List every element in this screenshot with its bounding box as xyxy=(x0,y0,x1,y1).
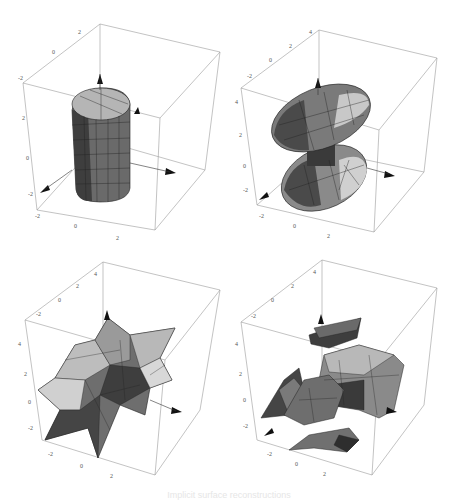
svg-text:-2: -2 xyxy=(259,213,264,219)
svg-text:-2: -2 xyxy=(251,313,256,319)
svg-text:0: 0 xyxy=(74,223,77,229)
svg-text:-2: -2 xyxy=(48,451,53,457)
figure-caption: Implicit surface reconstructions xyxy=(0,490,458,500)
plot-panel-cylinder: 2 0 -2 2 0 -2 -2 0 2 xyxy=(0,0,229,240)
fragments-3d-plot: 4 2 0 -2 4 2 0 -2 -2 0 2 xyxy=(229,240,458,480)
svg-text:-2: -2 xyxy=(243,187,248,193)
svg-text:0: 0 xyxy=(269,57,272,63)
x-axis-arrow-icon xyxy=(171,407,182,414)
svg-text:2: 2 xyxy=(327,233,330,239)
svg-text:4: 4 xyxy=(309,29,312,35)
svg-text:0: 0 xyxy=(293,223,296,229)
plot-panel-fragments: 4 2 0 -2 4 2 0 -2 -2 0 2 xyxy=(229,240,458,480)
svg-text:-2: -2 xyxy=(35,213,40,219)
svg-text:4: 4 xyxy=(313,269,316,275)
svg-text:-2: -2 xyxy=(18,75,23,81)
svg-text:0: 0 xyxy=(52,49,55,55)
svg-text:0: 0 xyxy=(243,163,246,169)
cylinder-3d-plot: 2 0 -2 2 0 -2 -2 0 2 xyxy=(0,0,229,240)
cylinder-surface xyxy=(72,88,130,202)
x-axis-arrow-icon xyxy=(384,171,395,178)
svg-text:-2: -2 xyxy=(243,423,248,429)
svg-text:2: 2 xyxy=(289,43,292,49)
svg-text:0: 0 xyxy=(58,297,61,303)
svg-text:-2: -2 xyxy=(267,451,272,457)
svg-text:0: 0 xyxy=(26,155,29,161)
svg-text:0: 0 xyxy=(28,399,31,405)
plot-panel-star-blob: 4 2 0 -2 4 2 0 -2 -2 0 2 xyxy=(0,240,229,480)
svg-text:2: 2 xyxy=(22,115,25,121)
y-axis-arrow-icon xyxy=(264,428,274,436)
svg-text:2: 2 xyxy=(239,371,242,377)
svg-text:2: 2 xyxy=(78,29,81,35)
svg-text:4: 4 xyxy=(235,99,238,105)
fragment-surfaces xyxy=(261,318,404,452)
svg-text:2: 2 xyxy=(323,471,326,477)
svg-text:-2: -2 xyxy=(28,425,33,431)
svg-text:0: 0 xyxy=(295,461,298,467)
svg-text:0: 0 xyxy=(243,397,246,403)
svg-text:-2: -2 xyxy=(28,191,33,197)
svg-text:0: 0 xyxy=(80,463,83,469)
svg-text:4: 4 xyxy=(18,341,21,347)
plot-panel-twin-ellipsoid: 4 2 0 -2 4 2 0 -2 -2 0 2 xyxy=(229,0,458,240)
star-blob-3d-plot: 4 2 0 -2 4 2 0 -2 -2 0 2 xyxy=(0,240,229,480)
svg-text:2: 2 xyxy=(239,132,242,138)
svg-text:-2: -2 xyxy=(36,311,41,317)
twin-ellipsoid-3d-plot: 4 2 0 -2 4 2 0 -2 -2 0 2 xyxy=(229,0,458,240)
ellipsoid-surface xyxy=(262,71,381,225)
svg-text:4: 4 xyxy=(235,341,238,347)
svg-text:2: 2 xyxy=(291,283,294,289)
z-axis-arrow-icon xyxy=(318,314,324,324)
star-blob-surface xyxy=(38,318,175,458)
svg-text:0: 0 xyxy=(271,297,274,303)
z-axis-arrow-icon xyxy=(104,310,110,320)
svg-text:-2: -2 xyxy=(247,73,252,79)
svg-text:2: 2 xyxy=(76,283,79,289)
svg-text:4: 4 xyxy=(94,271,97,277)
svg-text:2: 2 xyxy=(24,371,27,377)
svg-text:2: 2 xyxy=(110,473,113,479)
